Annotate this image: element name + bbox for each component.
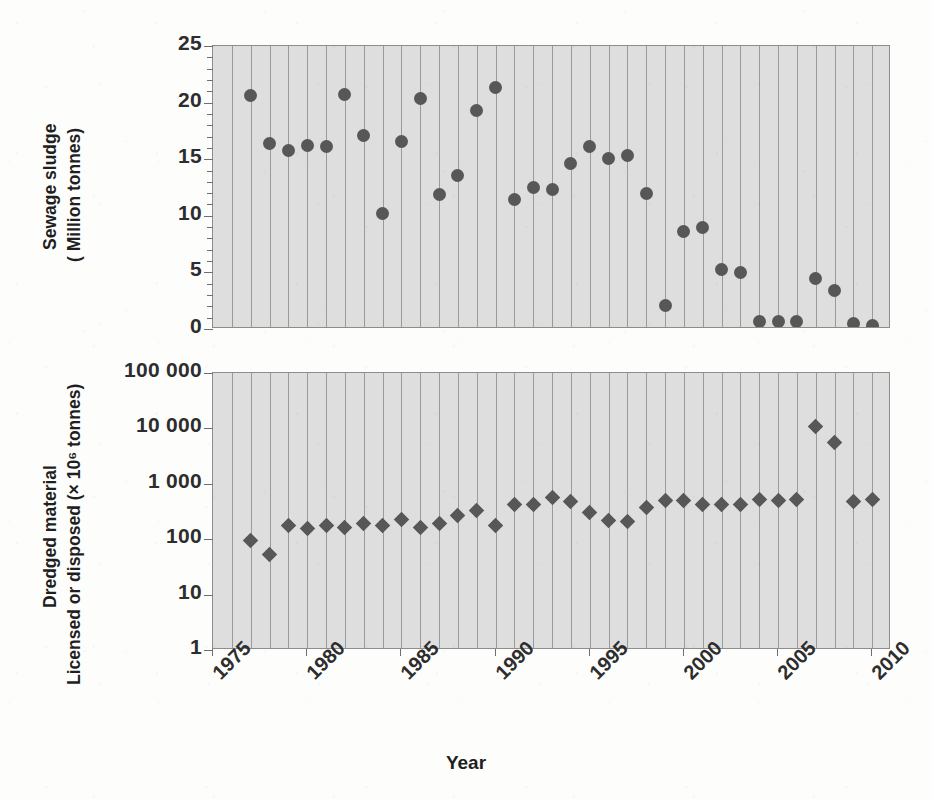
x-tick-label-1985: 1985 [396, 637, 444, 685]
x-tick-label-2010: 2010 [867, 637, 915, 685]
x-tick-label-1995: 1995 [585, 637, 633, 685]
x-axis-title: Year [0, 752, 932, 774]
figure-root: Sewage sludge ( Million tonnes) 25201510… [0, 0, 932, 799]
x-tick-label-1980: 1980 [302, 637, 350, 685]
x-axis-tick-labels: 19751980198519901995200020052010 [0, 0, 932, 760]
x-tick-label-2005: 2005 [773, 637, 821, 685]
x-tick-label-2000: 2000 [679, 637, 727, 685]
x-tick-label-1975: 1975 [208, 637, 256, 685]
x-tick-label-1990: 1990 [491, 637, 539, 685]
